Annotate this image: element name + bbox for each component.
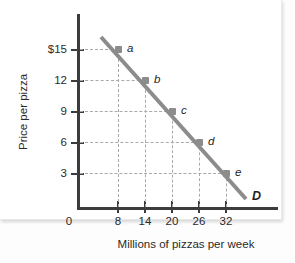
demand-curve-label: D [252, 190, 261, 203]
demand-curve-figure: $15 12 9 6 3 0 8 14 20 26 32 a b c d e D… [0, 0, 295, 263]
data-point-d[interactable] [196, 139, 203, 146]
data-point-label-c: c [181, 105, 187, 117]
demand-curve-line [0, 0, 295, 263]
x-axis-title: Millions of pizzas per week [86, 238, 286, 250]
data-point-label-b: b [154, 74, 160, 86]
data-point-b[interactable] [142, 77, 149, 84]
data-point-label-a: a [127, 43, 133, 55]
data-point-label-e: e [235, 167, 241, 179]
data-point-e[interactable] [223, 170, 230, 177]
data-point-label-d: d [208, 136, 214, 148]
data-point-c[interactable] [169, 108, 176, 115]
data-point-a[interactable] [115, 46, 122, 53]
y-axis-title: Price per pizza [17, 42, 29, 182]
